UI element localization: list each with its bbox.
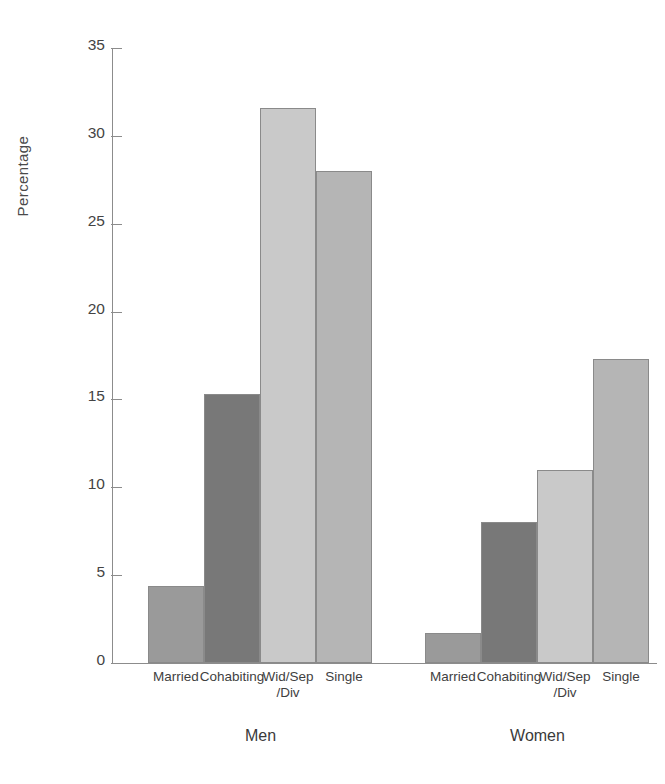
x-axis-line: [112, 663, 657, 664]
bar: [537, 470, 593, 663]
bar: [260, 108, 316, 663]
y-axis-tick-label: 5: [96, 564, 105, 580]
category-labels-men: MarriedCohabitingWid/Sep /DivSingle: [148, 669, 373, 715]
y-axis-tick-label: 10: [88, 476, 105, 492]
y-axis-label: Percentage: [14, 76, 44, 276]
plot-area: [112, 48, 657, 663]
bar-group-women: [425, 48, 650, 663]
y-axis-tick-label: 20: [88, 301, 105, 317]
group-label-men: Men: [148, 727, 373, 745]
bar: [593, 359, 649, 663]
y-axis-tick: 0: [60, 663, 122, 664]
y-axis-tick-mark: [111, 663, 122, 664]
bar: [316, 171, 372, 663]
bar-group-men: [148, 48, 373, 663]
y-axis-tick-label: 30: [88, 125, 105, 141]
bar-chart: Percentage 05101520253035 MarriedCohabit…: [0, 0, 665, 784]
bar: [204, 394, 260, 663]
bar: [148, 586, 204, 663]
x-axis-category-label: Single: [588, 669, 654, 685]
y-axis-tick-label: 35: [88, 37, 105, 53]
bar: [425, 633, 481, 663]
y-axis-tick-label: 15: [88, 388, 105, 404]
x-axis-category-label: Single: [311, 669, 377, 685]
category-labels-women: MarriedCohabitingWid/Sep /DivSingle: [425, 669, 650, 715]
bar: [481, 522, 537, 663]
group-label-women: Women: [425, 727, 650, 745]
y-axis-tick-label: 25: [88, 213, 105, 229]
y-axis-tick-label: 0: [96, 652, 105, 668]
